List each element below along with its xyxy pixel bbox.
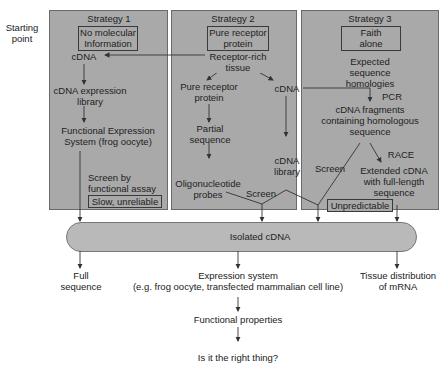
strategy-3-start-box: Faith alone (341, 26, 401, 51)
strategy-2-start-box: Pure receptor protein (207, 26, 269, 51)
oligo-line-2: probes (168, 189, 248, 200)
outcome-full-sequence: Full sequence (52, 270, 110, 292)
strategy-2-cdna-library: cDNA library (270, 155, 304, 177)
fragments-line-2: containing homologous (310, 115, 430, 126)
strategy-2-title: Strategy 2 (193, 13, 273, 24)
oligo-line-1: Oligonucleotide (168, 178, 248, 189)
library-line-1: cDNA expression (50, 85, 130, 96)
strategy-2-screen-label: Screen (243, 188, 279, 199)
strategy-1-screen-label: Screen by functional assay (88, 172, 166, 194)
expression-line-1: Expression system (118, 270, 358, 281)
full-sequence-line-2: sequence (52, 281, 110, 292)
strategy-1-cdna: cDNA (70, 51, 98, 62)
tissue-distribution-line-1: Tissue distribution (356, 270, 440, 281)
library-line-1: cDNA (270, 155, 304, 166)
expected-line-1: Expected (335, 56, 405, 67)
fragments-line-1: cDNA fragments (310, 104, 430, 115)
strategy-2-receptor-tissue: Receptor-rich tissue (205, 51, 271, 73)
start-box-line-2: alone (342, 38, 400, 49)
start-box-line-1: Faith (342, 27, 400, 38)
system-line-2: System (frog oocyte) (52, 136, 164, 147)
library-line-2: library (50, 96, 130, 107)
strategy-3-title: Strategy 3 (330, 13, 410, 24)
strategy-1-functional-system: Functional Expression System (frog oocyt… (52, 125, 164, 147)
partial-line-1: Partial (185, 123, 235, 134)
outcome-expression-system: Expression system (e.g. frog oocyte, tra… (118, 270, 358, 292)
start-box-line-1: No molecular (79, 27, 137, 38)
strategy-3-verdict: Unpredictable (327, 199, 393, 212)
screen-line-2: functional assay (88, 183, 166, 194)
tissue-line-2: tissue (205, 62, 271, 73)
extended-line-2: with full-length (352, 176, 436, 187)
tissue-line-1: Receptor-rich (205, 51, 271, 62)
outcome-tissue-distribution: Tissue distribution of mRNA (356, 270, 440, 292)
tissue-distribution-line-2: of mRNA (356, 281, 440, 292)
partial-line-2: sequence (185, 134, 235, 145)
strategy-3-race-label: RACE (386, 149, 416, 160)
strategy-1-title: Strategy 1 (69, 13, 149, 24)
strategy-3-extended-cdna: Extended cDNA with full-length sequence (352, 165, 436, 198)
start-box-line-2: protein (208, 38, 268, 49)
expression-line-2: (e.g. frog oocyte, transfected mammalian… (118, 281, 358, 292)
start-box-line-1: Pure receptor (208, 27, 268, 38)
strategy-3-expected-homologies: Expected sequence homologies (335, 56, 405, 89)
strategy-3-screen-label: Screen (313, 163, 347, 174)
expected-line-2: sequence (335, 67, 405, 78)
strategy-2-partial-sequence: Partial sequence (185, 123, 235, 145)
strategy-3-cdna-fragments: cDNA fragments containing homologous seq… (310, 104, 430, 137)
outcome-right-thing: Is it the right thing? (178, 352, 298, 363)
protein-line-2: protein (175, 92, 243, 103)
full-sequence-line-1: Full (52, 270, 110, 281)
strategy-2-cdna: cDNA (272, 83, 302, 94)
extended-line-1: Extended cDNA (352, 165, 436, 176)
outcome-functional-properties: Functional properties (178, 314, 298, 325)
strategy-2-pure-protein: Pure receptor protein (175, 81, 243, 103)
screen-line-1: Screen by (88, 172, 166, 183)
strategy-3-pcr-label: PCR (380, 91, 404, 102)
library-line-2: library (270, 166, 304, 177)
strategy-2-oligo-probes: Oligonucleotide probes (168, 178, 248, 200)
start-box-line-2: Information (79, 38, 137, 49)
system-line-1: Functional Expression (52, 125, 164, 136)
fragments-line-3: sequence (310, 126, 430, 137)
strategy-1-expression-library: cDNA expression library (50, 85, 130, 107)
extended-line-3: sequence (352, 187, 436, 198)
protein-line-1: Pure receptor (175, 81, 243, 92)
expected-line-3: homologies (335, 78, 405, 89)
strategy-1-start-box: No molecular Information (78, 26, 138, 51)
strategy-1-verdict: Slow, unreliable (88, 195, 162, 208)
